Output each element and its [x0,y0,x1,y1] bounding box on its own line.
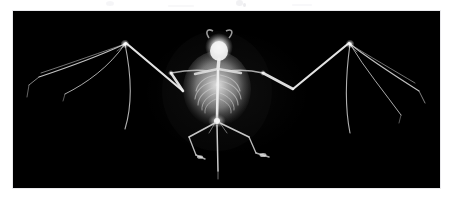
dust-speckle-icon [106,1,114,6]
dust-speckle-icon [243,3,246,7]
dust-speckle-icon [292,4,312,6]
xray-photo-plate [13,11,440,188]
photo-page [0,0,452,199]
dust-speckle-icon [236,0,243,6]
dust-speckle-icon [168,5,194,7]
bat-skeleton-xray-image [13,11,440,188]
